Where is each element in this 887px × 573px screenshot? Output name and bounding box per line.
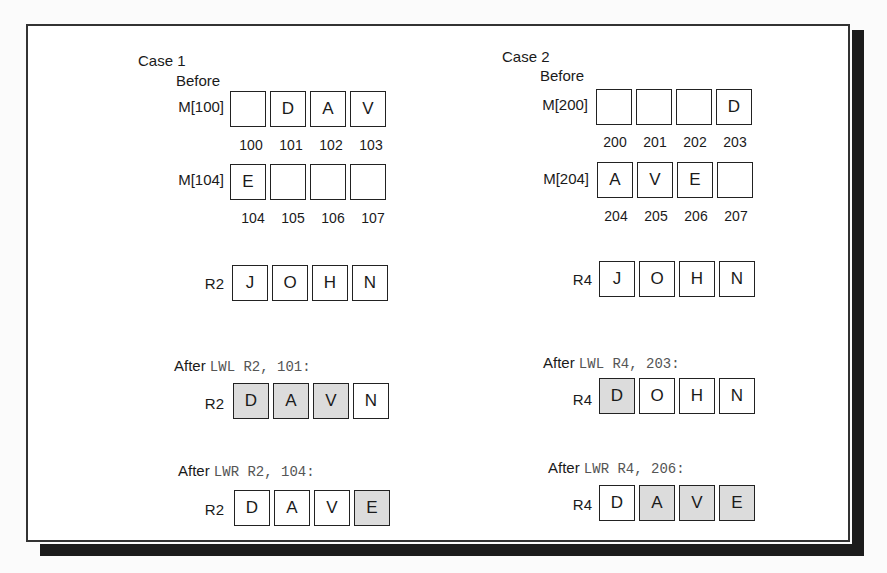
address-label: 206 <box>678 208 714 224</box>
register-cell: D <box>234 490 270 526</box>
case1-before-label: Before <box>176 72 220 90</box>
register-cell: N <box>353 383 389 419</box>
register-cell: H <box>312 265 348 301</box>
after-prefix: After <box>178 462 210 479</box>
register-cell: J <box>599 261 635 297</box>
memory-cell <box>270 164 306 200</box>
case1-mem0-row: D A V <box>230 91 386 127</box>
address-label: 101 <box>273 137 309 153</box>
instruction: LWR R4, 206: <box>584 461 685 477</box>
case2-mem0-row: D <box>596 89 752 125</box>
case1-title: Case 1 <box>138 52 186 70</box>
case1-after-lwl-register-label: R2 <box>190 395 224 413</box>
register-cell: O <box>639 261 675 297</box>
case1-after-lwr-caption: After LWR R2, 104: <box>178 462 315 481</box>
after-prefix: After <box>174 357 206 374</box>
address-label: 200 <box>597 134 633 150</box>
register-cell: N <box>352 265 388 301</box>
case1-mem0-label: M[100] <box>164 98 224 116</box>
instruction: LWR R2, 104: <box>214 464 315 480</box>
case2-mem1-addresses: 204 205 206 207 <box>598 208 754 224</box>
address-label: 103 <box>353 137 389 153</box>
memory-cell <box>676 89 712 125</box>
register-cell-changed: V <box>679 485 715 521</box>
case2-mem0-addresses: 200 201 202 203 <box>597 134 753 150</box>
register-cell-changed: D <box>233 383 269 419</box>
memory-cell: V <box>350 91 386 127</box>
frame-shadow-bottom <box>40 544 864 556</box>
register-cell: H <box>679 261 715 297</box>
address-label: 102 <box>313 137 349 153</box>
frame-shadow-right <box>852 30 864 556</box>
register-cell-changed: D <box>599 378 635 414</box>
case1-mem1-label: M[104] <box>164 171 224 189</box>
case2-mem0-label: M[200] <box>526 96 588 114</box>
memory-cell <box>350 164 386 200</box>
case1-mem1-addresses: 104 105 106 107 <box>235 210 391 226</box>
register-cell-changed: V <box>313 383 349 419</box>
register-cell: H <box>679 378 715 414</box>
case2-after-lwl-caption: After LWL R4, 203: <box>543 354 680 373</box>
address-label: 104 <box>235 210 271 226</box>
memory-cell: E <box>677 162 713 198</box>
memory-cell <box>310 164 346 200</box>
address-label: 207 <box>718 208 754 224</box>
memory-cell: D <box>270 91 306 127</box>
register-cell: O <box>639 378 675 414</box>
memory-cell <box>230 91 266 127</box>
memory-cell <box>717 162 753 198</box>
register-cell-changed: E <box>354 490 390 526</box>
register-cell: O <box>272 265 308 301</box>
case1-register-row: J O H N <box>232 265 388 301</box>
address-label: 203 <box>717 134 753 150</box>
case1-after-lwl-row: D A V N <box>233 383 389 419</box>
register-cell: N <box>719 261 755 297</box>
register-cell: A <box>274 490 310 526</box>
case2-title: Case 2 <box>502 48 550 66</box>
case1-after-lwl-caption: After LWL R2, 101: <box>174 357 311 376</box>
memory-cell: E <box>230 164 266 200</box>
case2-after-lwl-row: D O H N <box>599 378 755 414</box>
after-prefix: After <box>548 459 580 476</box>
address-label: 201 <box>637 134 673 150</box>
memory-cell: V <box>637 162 673 198</box>
address-label: 202 <box>677 134 713 150</box>
address-label: 107 <box>355 210 391 226</box>
register-cell-changed: A <box>273 383 309 419</box>
address-label: 105 <box>275 210 311 226</box>
memory-cell <box>596 89 632 125</box>
memory-cell <box>636 89 672 125</box>
register-cell: V <box>314 490 350 526</box>
register-cell: D <box>599 485 635 521</box>
memory-cell: A <box>597 162 633 198</box>
case2-mem1-row: A V E <box>597 162 753 198</box>
register-cell-changed: E <box>719 485 755 521</box>
register-cell: J <box>232 265 268 301</box>
case1-mem1-row: E <box>230 164 386 200</box>
case1-mem0-addresses: 100 101 102 103 <box>233 137 389 153</box>
after-prefix: After <box>543 354 575 371</box>
address-label: 205 <box>638 208 674 224</box>
memory-cell: A <box>310 91 346 127</box>
case1-register-label: R2 <box>190 275 224 293</box>
case1-after-lwr-register-label: R2 <box>190 501 224 519</box>
case2-before-label: Before <box>540 67 584 85</box>
address-label: 204 <box>598 208 634 224</box>
address-label: 106 <box>315 210 351 226</box>
case2-register-row: J O H N <box>599 261 755 297</box>
case2-after-lwl-register-label: R4 <box>558 391 592 409</box>
case1-after-lwr-row: D A V E <box>234 490 390 526</box>
register-cell: N <box>719 378 755 414</box>
case2-mem1-label: M[204] <box>527 170 589 188</box>
instruction: LWL R2, 101: <box>210 359 311 375</box>
address-label: 100 <box>233 137 269 153</box>
memory-cell: D <box>716 89 752 125</box>
instruction: LWL R4, 203: <box>579 356 680 372</box>
case2-after-lwr-caption: After LWR R4, 206: <box>548 459 685 478</box>
case2-register-label: R4 <box>558 271 592 289</box>
case2-after-lwr-row: D A V E <box>599 485 755 521</box>
case2-after-lwr-register-label: R4 <box>558 496 592 514</box>
register-cell-changed: A <box>639 485 675 521</box>
